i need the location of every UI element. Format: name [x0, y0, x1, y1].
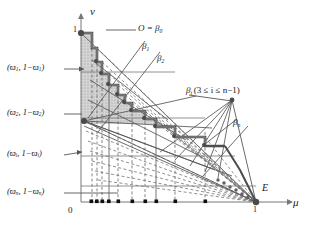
x-unit-label: 1 — [253, 206, 257, 214]
simplex-beta-diagram: ν μ 1 1 0 O = β0 β1 β2 βi (3 ≤ i ≤ n−1) … — [0, 0, 310, 240]
beta-i-label: βi (3 ≤ i ≤ n−1) — [186, 86, 240, 95]
point-E-label: E — [262, 183, 268, 193]
origin-label: 0 — [68, 206, 73, 215]
beta2-label: β2 — [157, 54, 164, 63]
pair-label-n: (ϖn, 1−ϖn) — [7, 187, 44, 196]
pair-label-2: (ϖ2, 1−ϖ2) — [7, 108, 44, 117]
y-axis-label: ν — [90, 6, 95, 17]
pair-label-1: (ϖ1, 1−ϖ1) — [7, 63, 44, 72]
origin-beta-label: O = β0 — [138, 24, 162, 33]
pair-label-i: (ϖi, 1−ϖi) — [7, 149, 42, 158]
beta1-label: β1 — [142, 42, 149, 51]
diagram-canvas — [0, 0, 310, 240]
beta-n-label: βn — [233, 118, 240, 127]
y-unit-label: 1 — [73, 26, 77, 34]
x-axis-label: μ — [293, 197, 299, 208]
